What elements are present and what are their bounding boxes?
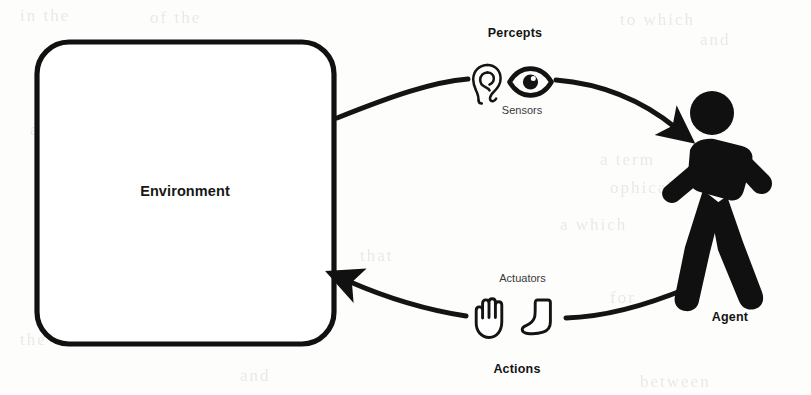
percepts-arrow — [337, 79, 468, 118]
percepts-arrow-tail — [556, 80, 676, 128]
foot-icon — [522, 300, 550, 334]
ear-icon — [473, 65, 500, 104]
actions-arrow — [348, 281, 466, 316]
actions-label: Actions — [462, 362, 572, 376]
actuators-label: Actuators — [470, 272, 575, 284]
agent-label: Agent — [680, 310, 780, 324]
hand-icon — [476, 299, 502, 338]
diagram-canvas: in theof theto whichanda froma termophic… — [0, 0, 811, 395]
percepts-label: Percepts — [460, 26, 570, 40]
sensors-label: Sensors — [472, 104, 572, 116]
actions-arrow-tail — [566, 288, 688, 318]
environment-label: Environment — [35, 183, 335, 199]
eye-icon — [510, 69, 552, 96]
agent-walking-person-icon — [662, 91, 772, 311]
